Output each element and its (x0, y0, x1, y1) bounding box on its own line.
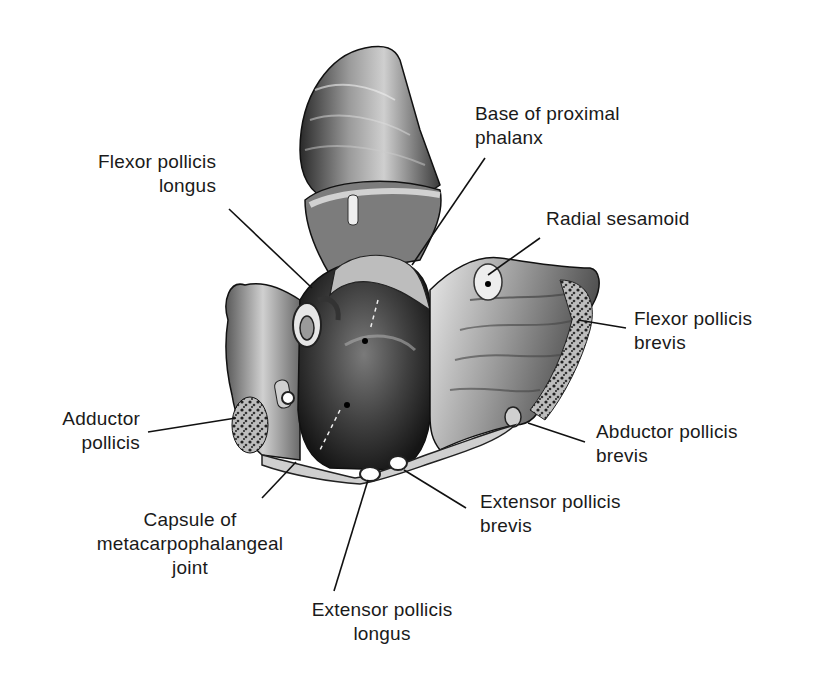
label-extensor-pollicis-brevis: Extensor pollicis brevis (480, 490, 621, 538)
leader-extensor-pollicis-longus (334, 480, 368, 591)
leader-abductor-pollicis-brevis (528, 423, 585, 442)
thenar-mass (430, 258, 599, 450)
label-flexor-pollicis-brevis: Flexor pollicis brevis (634, 307, 752, 355)
label-radial-sesamoid: Radial sesamoid (546, 207, 689, 231)
label-base-of-proximal-phalanx: Base of proximal phalanx (475, 102, 620, 150)
leader-flexor-pollicis-longus (229, 209, 312, 288)
leader-adductor-pollicis (148, 418, 236, 432)
anatomy-figure: Flexor pollicis longus Base of proximal … (0, 0, 816, 680)
label-extensor-pollicis-longus: Extensor pollicis longus (282, 598, 482, 646)
adductor-mass (226, 284, 300, 460)
label-abductor-pollicis-brevis: Abductor pollicis brevis (596, 420, 738, 468)
leader-extensor-pollicis-brevis (404, 470, 466, 508)
label-capsule-of-mcp-joint: Capsule of metacarpophalangeal joint (90, 508, 290, 580)
phalanx-shaft (300, 47, 440, 202)
label-flexor-pollicis-longus: Flexor pollicis longus (98, 150, 216, 198)
label-adductor-pollicis: Adductor pollicis (40, 407, 140, 455)
